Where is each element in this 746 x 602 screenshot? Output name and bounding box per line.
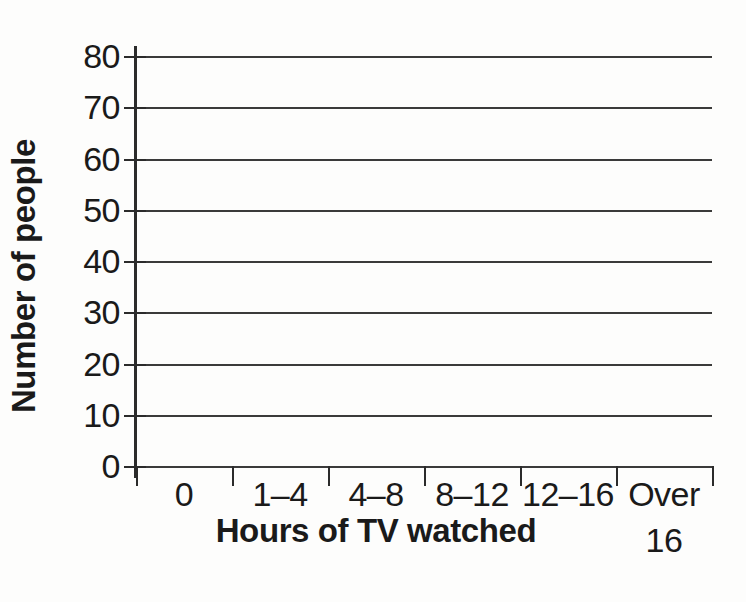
gridline [136, 56, 712, 58]
x-axis-tick-label-line: 8–12 [424, 474, 520, 514]
y-axis-tick-label: 10 [54, 398, 120, 432]
x-axis-tick-label-line: Over [616, 474, 712, 514]
y-axis-tick-label: 40 [54, 244, 120, 278]
y-axis-tick [124, 364, 146, 366]
gridline [136, 312, 712, 314]
x-axis-tick-label: 0 [136, 474, 232, 514]
y-axis-tick [124, 107, 146, 109]
x-axis-tick [712, 466, 714, 486]
y-axis-tick-label: 0 [54, 449, 120, 483]
y-axis-tick [124, 415, 146, 417]
x-axis-tick-label-line: 0 [136, 474, 232, 514]
gridline [136, 415, 712, 417]
y-axis-tick [124, 312, 146, 314]
y-axis-title: Number of people [2, 66, 46, 486]
y-axis-tick-label: 50 [54, 193, 120, 227]
y-axis-tick-label: 30 [54, 295, 120, 329]
x-axis-tick-label-line: 4–8 [328, 474, 424, 514]
y-axis-tick-label: 80 [54, 39, 120, 73]
x-axis-tick-label: 1–4 [232, 474, 328, 514]
plot-area [136, 56, 712, 466]
y-axis-tick [124, 261, 146, 263]
x-axis-title: Hours of TV watched [136, 512, 616, 550]
x-axis-tick-label-line: 1–4 [232, 474, 328, 514]
y-axis-tick-label: 60 [54, 142, 120, 176]
gridline [136, 107, 712, 109]
x-axis-tick-label-line: 12–16 [520, 474, 616, 514]
gridline [136, 159, 712, 161]
gridline [136, 261, 712, 263]
y-axis-tick-label: 70 [54, 90, 120, 124]
bar-chart-figure: Number of people 80706050403020100 01–44… [0, 0, 746, 602]
x-axis-tick-label: 4–8 [328, 474, 424, 514]
y-axis-tick-labels: 80706050403020100 [48, 0, 120, 602]
gridline [136, 210, 712, 212]
x-axis-tick-label: 8–12 [424, 474, 520, 514]
x-axis-tick-label: Over16 [616, 474, 712, 560]
y-axis-tick [124, 159, 146, 161]
y-axis-tick-label: 20 [54, 347, 120, 381]
y-axis-tick [124, 56, 146, 58]
x-axis-tick-label: 12–16 [520, 474, 616, 514]
x-axis-tick-label-line: 16 [616, 520, 712, 560]
y-axis-tick [124, 466, 146, 468]
gridline [136, 364, 712, 366]
y-axis-tick [124, 210, 146, 212]
